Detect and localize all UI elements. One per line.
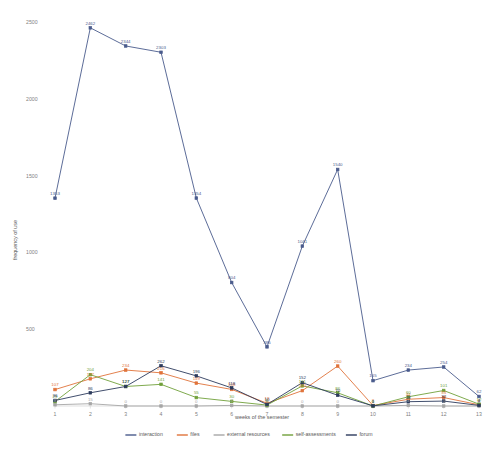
data-point-marker: [160, 405, 163, 408]
data-label: 165: [369, 373, 377, 378]
x-tick-label: 6: [230, 411, 233, 417]
data-label: 254: [440, 360, 448, 365]
data-label: 1354: [191, 191, 201, 196]
data-point-marker: [160, 383, 163, 386]
data-point-marker: [442, 405, 445, 408]
data-label: 118: [228, 381, 236, 386]
data-label: 0: [195, 399, 198, 404]
data-label: 62: [477, 389, 482, 394]
data-point-marker: [266, 346, 269, 349]
y-axis-title: frequency of use: [12, 220, 18, 260]
data-point-marker: [195, 197, 198, 200]
data-point-marker: [89, 27, 92, 30]
data-label: 70: [335, 388, 340, 393]
data-point-marker: [336, 365, 339, 368]
data-label: 204: [87, 367, 95, 372]
data-label: 15: [88, 397, 93, 402]
legend-label-self-assessments: self-assessments: [296, 431, 336, 437]
data-point-marker: [336, 405, 339, 408]
chart-canvas: 5001000150020002500 12345678910111213 13…: [0, 0, 497, 453]
data-point-marker: [54, 388, 57, 391]
data-label: 127: [122, 379, 130, 384]
data-label: 10: [265, 397, 270, 402]
data-point-marker: [54, 403, 57, 406]
data-label: 262: [157, 359, 165, 364]
data-label: 32: [441, 394, 446, 399]
data-label: 101: [440, 383, 448, 388]
data-label: 86: [88, 386, 93, 391]
line-chart: 5001000150020002500 12345678910111213 13…: [0, 0, 497, 453]
data-label: 0: [301, 399, 304, 404]
x-tick-label: 3: [124, 411, 127, 417]
data-label: 804: [228, 275, 236, 280]
x-axis-title: weeks of the semester: [234, 414, 289, 420]
data-point-marker: [124, 369, 127, 372]
y-tick-label: 2500: [26, 19, 38, 25]
data-point-marker: [301, 389, 304, 392]
y-tick-label: 1000: [26, 249, 38, 255]
legend-label-interaction: interaction: [139, 431, 163, 437]
x-tick-label: 4: [160, 411, 163, 417]
data-point-marker: [301, 405, 304, 408]
data-label: 1353: [50, 191, 60, 196]
data-label: 1: [372, 399, 375, 404]
data-point-marker: [195, 382, 198, 385]
data-label: 30: [229, 394, 234, 399]
x-tick-label: 5: [195, 411, 198, 417]
data-point-marker: [89, 391, 92, 394]
data-point-marker: [301, 245, 304, 248]
data-label: 149: [193, 376, 201, 381]
data-point-marker: [54, 197, 57, 200]
data-label: 36: [53, 393, 58, 398]
data-point-marker: [230, 281, 233, 284]
data-point-marker: [442, 366, 445, 369]
data-point-marker: [124, 45, 127, 48]
data-label: 0: [160, 399, 163, 404]
data-point-marker: [195, 405, 198, 408]
data-point-marker: [160, 372, 163, 375]
x-tick-label: 12: [441, 411, 447, 417]
data-point-marker: [372, 405, 375, 408]
data-label: 216: [157, 366, 165, 371]
data-label: 260: [334, 359, 342, 364]
data-label: 2344: [121, 39, 131, 44]
data-label: 1041: [297, 239, 307, 244]
y-tick-label: 500: [26, 326, 35, 332]
data-label: 0: [124, 399, 127, 404]
x-tick-label: 9: [336, 411, 339, 417]
legend-label-forum: forum: [359, 431, 372, 437]
data-label: 107: [51, 382, 59, 387]
legend-label-files: files: [190, 431, 200, 437]
data-label: 100: [299, 383, 307, 388]
data-label: 141: [157, 377, 165, 382]
data-point-marker: [407, 404, 410, 407]
data-label: 385: [263, 340, 271, 345]
data-label: 152: [299, 375, 307, 380]
data-label: 1540: [333, 162, 343, 167]
data-label: 0: [336, 399, 339, 404]
data-point-marker: [372, 379, 375, 382]
legend-label-external-resources: external resources: [227, 431, 270, 437]
x-tick-label: 2: [89, 411, 92, 417]
x-tick-label: 11: [406, 411, 411, 417]
data-point-marker: [124, 385, 127, 388]
data-point-marker: [89, 378, 92, 381]
y-axis: 5001000150020002500: [26, 19, 38, 332]
y-tick-label: 2000: [26, 96, 38, 102]
legend: interactionfilesexternal resourcesself-a…: [125, 431, 372, 437]
data-point-marker: [124, 405, 127, 408]
data-label: 234: [122, 363, 130, 368]
y-tick-label: 1500: [26, 173, 38, 179]
series-layer: [54, 27, 481, 408]
x-tick-label: 10: [370, 411, 376, 417]
data-label: 2462: [85, 21, 95, 26]
data-label: 234: [405, 363, 413, 368]
data-point-marker: [478, 404, 481, 407]
data-point-marker: [336, 394, 339, 397]
data-point-marker: [336, 168, 339, 171]
data-label: 55: [194, 390, 199, 395]
data-point-marker: [407, 369, 410, 372]
data-point-marker: [160, 51, 163, 54]
x-tick-label: 8: [301, 411, 304, 417]
data-point-marker: [89, 402, 92, 405]
